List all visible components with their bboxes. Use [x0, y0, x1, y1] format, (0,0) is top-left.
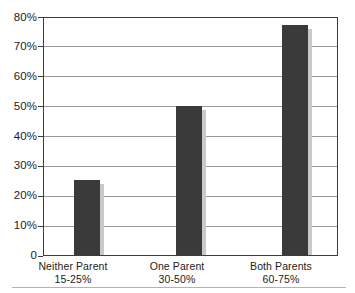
x-category-range-3: 60-75%	[221, 273, 341, 286]
chart-title	[0, 0, 355, 3]
x-category-range-1: 15-25%	[13, 273, 133, 286]
y-axis-label-80: 80%	[0, 12, 37, 24]
y-axis-label-40: 40%	[0, 131, 37, 143]
x-category-range-2: 30-50%	[117, 273, 237, 286]
bar-one-parent	[176, 106, 202, 255]
y-axis-label-10: 10%	[0, 220, 37, 232]
x-category-name-2: One Parent	[117, 260, 237, 273]
bar-both-parents	[282, 25, 308, 255]
x-axis-category-one-parent: One Parent 30-50%	[117, 260, 237, 286]
y-axis-label-20: 20%	[0, 190, 37, 202]
y-tick-mark-0	[38, 256, 43, 257]
y-axis-label-30: 30%	[0, 160, 37, 172]
bar-neither-parent	[74, 180, 100, 255]
x-category-name-1: Neither Parent	[13, 260, 133, 273]
y-axis-label-50: 50%	[0, 101, 37, 113]
y-axis-label-60: 60%	[0, 71, 37, 83]
x-category-name-3: Both Parents	[221, 260, 341, 273]
x-axis-category-both-parents: Both Parents 60-75%	[221, 260, 341, 286]
bar-chart-figure: 80% 70% 60% 50% 40% 30% 20% 10% 0 Neithe…	[0, 0, 355, 293]
footer-divider	[12, 287, 346, 288]
plot-area	[43, 17, 338, 256]
x-axis-category-neither-parent: Neither Parent 15-25%	[13, 260, 133, 286]
y-axis-label-70: 70%	[0, 41, 37, 53]
